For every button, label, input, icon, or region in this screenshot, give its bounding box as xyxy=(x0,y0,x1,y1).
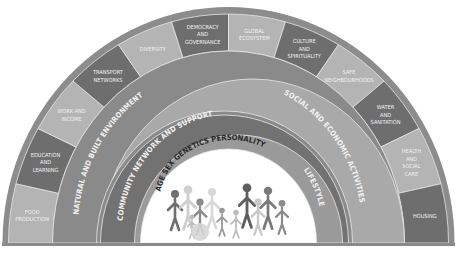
outer-segment-label: HOUSING xyxy=(413,213,437,219)
health-determinants-rainbow: FOODPRODUCTIONEDUCATIONANDLEARNINGWORK A… xyxy=(0,0,457,257)
outer-segment-label: TRANSPORTNETWORKS xyxy=(92,69,124,83)
baseline xyxy=(2,243,455,246)
outer-segment-label: DIVERSITY xyxy=(140,46,167,52)
outer-segment-label: WORK ANDINCOME xyxy=(57,108,86,122)
rainbow-svg: FOODPRODUCTIONEDUCATIONANDLEARNINGWORK A… xyxy=(0,0,457,257)
